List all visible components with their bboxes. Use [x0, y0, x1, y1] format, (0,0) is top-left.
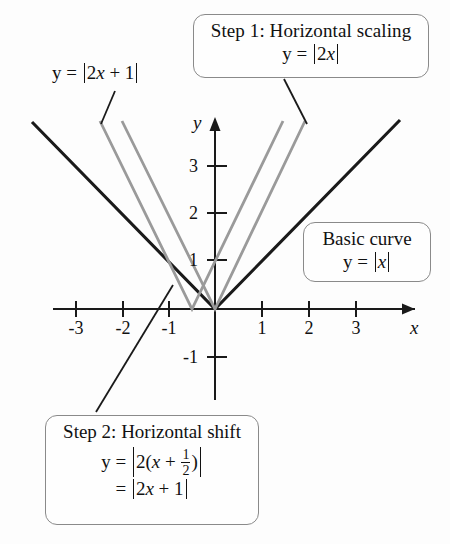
absolute-value-transformation-figure: -3 -2 -1 1 2 3 3 2 1 -1 x y y = 2x + 1 S…	[0, 0, 450, 544]
abs-bar-right-icon	[136, 63, 137, 83]
callout-basic-title: Basic curve	[312, 227, 422, 250]
callout-basic-equation: y = x	[312, 250, 422, 273]
callout-step2-equation-1: y = 2(x + 12)	[54, 447, 250, 477]
y-axis-label: y	[193, 112, 201, 134]
x-tick-label-1: 1	[253, 318, 271, 339]
x-tick-label--1: -1	[155, 318, 183, 339]
curve-scaled-abs-2x	[122, 121, 305, 309]
abs-bar-left-icon	[314, 44, 315, 64]
callout-step1: Step 1: Horizontal scaling y = 2x	[193, 14, 429, 78]
y-tick-label--1: -1	[168, 347, 198, 368]
callout-step2-title: Step 2: Horizontal shift	[54, 420, 250, 443]
abs-bar-left-icon	[84, 63, 85, 83]
callout-step1-equation: y = 2x	[202, 42, 420, 65]
callout-step2-eq-prefix: y =	[101, 452, 131, 473]
callout-step2-eq2-prefix: =	[115, 478, 130, 499]
leader-curve-label	[101, 91, 115, 124]
x-axis-label: x	[410, 317, 418, 339]
callout-basic-eq-prefix: y =	[343, 251, 373, 272]
x-tick-label-2: 2	[300, 318, 318, 339]
callout-step1-eq-prefix: y =	[282, 43, 312, 64]
curve-label-abs-2x-plus-1: y = 2x + 1	[52, 62, 139, 84]
y-tick-label-3: 3	[180, 156, 198, 177]
callout-basic-curve: Basic curve y = x	[303, 222, 431, 282]
leader-step1	[284, 79, 307, 124]
abs-bar-right-icon	[186, 479, 187, 499]
x-tick-label-3: 3	[347, 318, 365, 339]
curve-label-prefix: y =	[52, 62, 82, 83]
y-axis-ticks	[207, 166, 227, 357]
x-axis	[53, 304, 415, 315]
abs-bar-left-icon	[133, 479, 134, 499]
x-tick-label--3: -3	[62, 318, 90, 339]
leader-step2	[96, 285, 173, 412]
x-tick-label--2: -2	[109, 318, 137, 339]
abs-bar-right-icon	[388, 252, 389, 272]
abs-bar-left-icon	[133, 447, 134, 476]
y-tick-label-1: 1	[180, 250, 198, 271]
fraction-one-half: 12	[181, 447, 190, 477]
callout-step2-equation-2: = 2x + 1	[54, 477, 250, 500]
callout-step1-title: Step 1: Horizontal scaling	[202, 19, 420, 42]
curve-label-expr: 2x + 1	[87, 62, 135, 83]
abs-bar-right-icon	[200, 447, 201, 476]
abs-bar-left-icon	[375, 252, 376, 272]
y-tick-label-2: 2	[180, 203, 198, 224]
callout-step2: Step 2: Horizontal shift y = 2(x + 12) =…	[45, 415, 259, 525]
abs-bar-right-icon	[337, 44, 338, 64]
